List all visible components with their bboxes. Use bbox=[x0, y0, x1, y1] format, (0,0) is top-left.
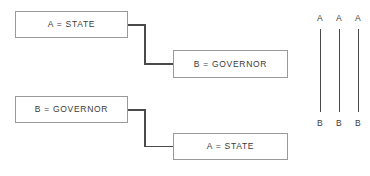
mapping-column-1-bottom-label: B bbox=[311, 119, 329, 128]
node-box-governor-top[interactable]: B = GOVERNOR bbox=[173, 50, 288, 78]
connector-top-segment-horizontal-start bbox=[128, 24, 146, 26]
mapping-column-1: A B bbox=[311, 14, 329, 128]
node-box-state-bottom[interactable]: A = STATE bbox=[173, 133, 288, 160]
connector-top-segment-vertical bbox=[144, 24, 146, 65]
connector-top-segment-horizontal-end bbox=[144, 63, 173, 65]
mapping-column-2: A B bbox=[330, 14, 348, 128]
node-label-governor-bottom: B = GOVERNOR bbox=[35, 105, 108, 114]
node-box-state-top[interactable]: A = STATE bbox=[15, 11, 128, 38]
mapping-column-3: A B bbox=[349, 14, 367, 128]
relation-mapping-diagram: A = STATE B = GOVERNOR B = GOVERNOR A = … bbox=[0, 0, 370, 176]
mapping-column-3-line bbox=[358, 29, 360, 112]
node-box-governor-bottom[interactable]: B = GOVERNOR bbox=[15, 96, 128, 123]
mapping-column-1-top-label: A bbox=[311, 14, 329, 23]
mapping-column-1-line bbox=[320, 29, 322, 112]
node-label-state-bottom: A = STATE bbox=[207, 142, 254, 151]
mapping-column-2-bottom-label: B bbox=[330, 119, 348, 128]
connector-bottom-segment-vertical bbox=[144, 109, 146, 147]
node-label-state-top: A = STATE bbox=[48, 20, 95, 29]
mapping-column-3-top-label: A bbox=[349, 14, 367, 23]
mapping-column-2-top-label: A bbox=[330, 14, 348, 23]
connector-bottom-segment-horizontal-start bbox=[128, 109, 146, 111]
connector-bottom-segment-horizontal-end bbox=[144, 146, 173, 148]
mapping-column-3-bottom-label: B bbox=[349, 119, 367, 128]
mapping-panel: A B A B A B bbox=[306, 14, 370, 128]
node-label-governor-top: B = GOVERNOR bbox=[194, 60, 267, 69]
mapping-column-2-line bbox=[339, 29, 341, 112]
